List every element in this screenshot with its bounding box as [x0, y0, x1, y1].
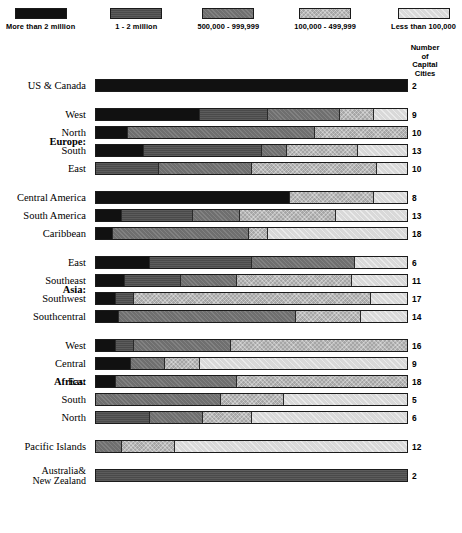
- bar-segment-500k: [112, 228, 249, 239]
- bar-segment-lt100k: [174, 441, 407, 452]
- bar-segment-500k: [192, 210, 239, 221]
- bar-segment-100k: [339, 109, 373, 120]
- bar-segment-1to2m: [143, 145, 261, 156]
- bar-segment-100k: [202, 412, 252, 423]
- stacked-bar: [95, 144, 408, 157]
- legend-swatch-1to2m: [110, 8, 162, 19]
- stacked-bar: [95, 411, 408, 424]
- bar-segment-1to2m: [96, 470, 407, 481]
- bar-segment-100k: [220, 394, 282, 405]
- legend-item-lt100k: Less than 100,000: [391, 8, 456, 31]
- capital-city-count: 9: [412, 356, 452, 371]
- row-label: North: [0, 125, 86, 140]
- stacked-bar: [95, 108, 408, 121]
- row-label: Southcentral: [0, 309, 86, 324]
- row-label: US & Canada: [0, 78, 86, 93]
- chart-row: North6: [0, 410, 462, 425]
- bar-segment-1to2m: [115, 293, 134, 304]
- bar-segment-1to2m: [124, 275, 180, 286]
- stacked-bar: [95, 191, 408, 204]
- bar-segment-500k: [251, 257, 354, 268]
- bar-segment-100k: [295, 311, 360, 322]
- bar-segment-500k: [158, 163, 251, 174]
- row-label: Australia& New Zealand: [0, 468, 86, 483]
- legend-label-gt2m: More than 2 million: [6, 22, 75, 31]
- row-label: Central: [0, 356, 86, 371]
- stacked-bar: [95, 126, 408, 139]
- stacked-bar: [95, 227, 408, 240]
- bar-segment-100k: [248, 228, 267, 239]
- bar-segment-1to2m: [199, 109, 267, 120]
- capital-city-count: 10: [412, 125, 452, 140]
- capital-city-count: 5: [412, 392, 452, 407]
- row-label: East: [0, 161, 86, 176]
- legend-item-100k: 100,000 - 499,999: [294, 8, 356, 31]
- legend-item-1to2m: 1 - 2 million: [110, 8, 162, 31]
- legend-label-100k: 100,000 - 499,999: [294, 22, 356, 31]
- group-spacer: [0, 327, 462, 338]
- chart-row: North10: [0, 125, 462, 140]
- row-label: South: [0, 392, 86, 407]
- legend-item-500k: 500,000 - 999,999: [197, 8, 259, 31]
- capital-city-count: 6: [412, 255, 452, 270]
- row-label: Central America: [0, 190, 86, 205]
- bar-segment-lt100k: [357, 145, 407, 156]
- bar-group-0: US & Canada2: [0, 78, 462, 93]
- stacked-bar: [95, 357, 408, 370]
- chart-row: West9: [0, 107, 462, 122]
- bar-segment-gt2m: [96, 376, 115, 387]
- stacked-bar: [95, 209, 408, 222]
- bar-segment-gt2m: [96, 228, 112, 239]
- bar-segment-gt2m: [96, 275, 124, 286]
- row-label: Southeast: [0, 273, 86, 288]
- bar-segment-gt2m: [96, 127, 127, 138]
- stacked-bar: [95, 375, 408, 388]
- row-label: Pacific Islands: [0, 439, 86, 454]
- stacked-bar: [95, 274, 408, 287]
- bar-segment-gt2m: [96, 340, 115, 351]
- bar-segment-lt100k: [267, 228, 407, 239]
- legend-swatch-lt100k: [398, 8, 450, 19]
- row-label: North: [0, 410, 86, 425]
- bar-segment-gt2m: [96, 210, 121, 221]
- bar-segment-gt2m: [96, 358, 130, 369]
- bar-segment-lt100k: [360, 311, 407, 322]
- bar-group-europe: Europe:West9North10South13East10: [0, 107, 462, 176]
- bar-segment-gt2m: [96, 257, 149, 268]
- bar-segment-lt100k: [373, 109, 407, 120]
- bar-segment-gt2m: [96, 145, 143, 156]
- capital-city-count: 10: [412, 161, 452, 176]
- bar-segment-100k: [133, 293, 369, 304]
- capital-city-count: 11: [412, 273, 452, 288]
- chart-row: East10: [0, 161, 462, 176]
- bar-segment-1to2m: [96, 163, 158, 174]
- row-label: West: [0, 338, 86, 353]
- bar-segment-500k: [261, 145, 286, 156]
- bar-segment-100k: [314, 127, 407, 138]
- bar-segment-500k: [96, 394, 220, 405]
- bar-segment-lt100k: [354, 257, 407, 268]
- bar-segment-500k: [96, 441, 121, 452]
- group-spacer: [0, 179, 462, 190]
- bar-segment-100k: [286, 145, 358, 156]
- bar-segment-lt100k: [376, 163, 407, 174]
- bar-segment-100k: [289, 192, 373, 203]
- chart-row: Central9: [0, 356, 462, 371]
- stacked-bar: [95, 79, 408, 92]
- chart-row: West16: [0, 338, 462, 353]
- bar-group-asia: Asia:East6Southeast11Southwest17Southcen…: [0, 255, 462, 324]
- chart-row: South5: [0, 392, 462, 407]
- row-label: Caribbean: [0, 226, 86, 241]
- bar-segment-500k: [127, 127, 314, 138]
- capital-city-count: 8: [412, 190, 452, 205]
- bar-segment-500k: [118, 311, 295, 322]
- chart-row: East6: [0, 255, 462, 270]
- capital-city-count: 14: [412, 309, 452, 324]
- bar-segment-500k: [130, 358, 164, 369]
- bar-segment-100k: [164, 358, 198, 369]
- chart-row: East18: [0, 374, 462, 389]
- bar-segment-1to2m: [115, 340, 134, 351]
- chart-row: South13: [0, 143, 462, 158]
- bar-segment-1to2m: [121, 210, 193, 221]
- legend: More than 2 million1 - 2 million500,000 …: [0, 8, 462, 42]
